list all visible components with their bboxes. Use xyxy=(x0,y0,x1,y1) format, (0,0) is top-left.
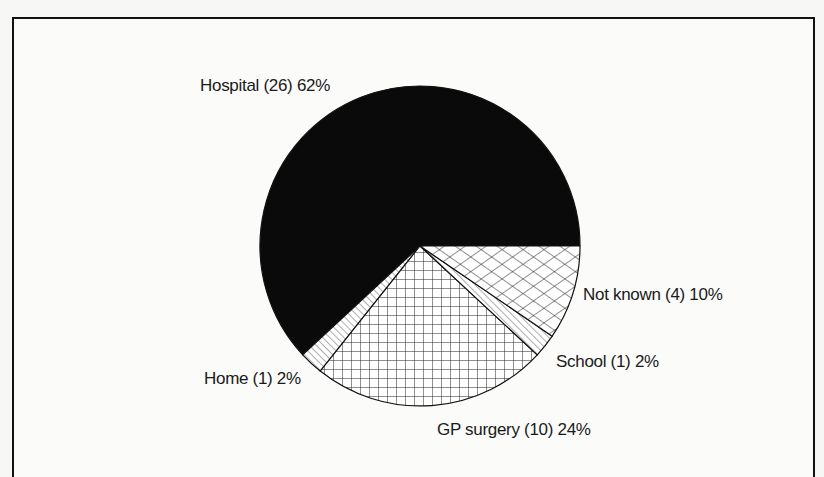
label-home: Home (1) 2% xyxy=(204,369,301,389)
label-hospital: Hospital (26) 62% xyxy=(200,76,330,96)
label-not-known: Not known (4) 10% xyxy=(583,285,722,305)
pie-slices xyxy=(260,86,580,406)
label-school: School (1) 2% xyxy=(556,352,659,372)
label-gp-surgery: GP surgery (10) 24% xyxy=(437,420,591,440)
